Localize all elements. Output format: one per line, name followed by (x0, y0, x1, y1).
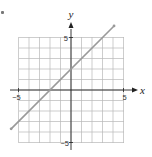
line-endpoint-icon (10, 127, 13, 130)
x-axis-label: x (139, 84, 145, 96)
y-axis-label: y (68, 8, 74, 20)
y-axis-arrow-icon (69, 22, 74, 28)
data-line (10, 25, 116, 131)
axis-labels: x y 5 −5 −5 5 (12, 8, 145, 148)
x-axis-arrow-icon (132, 88, 138, 93)
y-tick-label-max: 5 (64, 34, 68, 43)
coordinate-plane: x y 5 −5 −5 5 (0, 0, 152, 157)
line-endpoint-icon (113, 25, 116, 28)
x-tick-label-min: −5 (12, 93, 21, 102)
x-tick-label-max: 5 (122, 93, 126, 102)
y-tick-label-min: −5 (60, 139, 69, 148)
